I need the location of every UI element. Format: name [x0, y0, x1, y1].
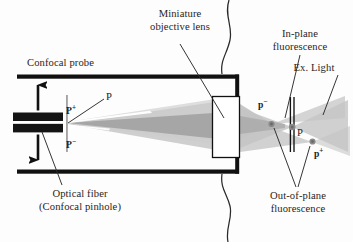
- label-miniature-objective-lens-line1: Miniature: [159, 8, 202, 20]
- label-ex-light: Ex. Light: [294, 62, 335, 74]
- label-in-plane-fluorescence-line2: fluorescence: [273, 41, 328, 53]
- beam-cones-inside-probe: [67, 97, 228, 152]
- marker-p-focus: P: [297, 127, 303, 138]
- optical-fiber: [13, 95, 68, 152]
- label-miniature-objective-lens-line2: objective lens: [150, 21, 210, 33]
- leader-out-of-plane-p-plus: [298, 146, 310, 187]
- marker-p-minus-source: P−: [66, 138, 76, 150]
- label-in-plane-fluorescence-line1: In-plane: [282, 28, 318, 40]
- label-out-of-plane-fluorescence-line2: fluorescence: [271, 203, 326, 215]
- label-out-of-plane-fluorescence-line1: Out-of-plane: [270, 190, 326, 202]
- marker-p-plus-focus-sup: +: [319, 147, 323, 155]
- marker-p-plus-source: P+: [66, 104, 76, 116]
- label-confocal-probe: Confocal probe: [27, 57, 94, 69]
- marker-p-plus-focus: p+: [314, 147, 323, 159]
- label-optical-fiber-line2: (Confocal pinhole): [39, 201, 121, 213]
- marker-p-minus-focus-sup: −: [263, 98, 267, 106]
- marker-p-axis-source: P: [106, 91, 112, 102]
- confocal-probe-figure: Confocal probe Miniature objective lens …: [0, 0, 353, 242]
- leader-optical-fiber: [42, 132, 62, 185]
- label-optical-fiber-line1: Optical fiber: [52, 188, 107, 200]
- marker-p-plus-source-sup: +: [72, 104, 76, 112]
- marker-p-minus-source-sup: −: [72, 138, 76, 146]
- marker-p-minus-focus: p−: [258, 98, 267, 110]
